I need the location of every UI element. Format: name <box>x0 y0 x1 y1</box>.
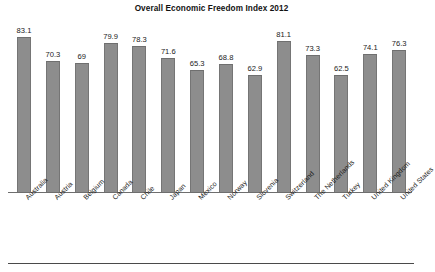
category-tick: Japan <box>154 194 183 254</box>
bar[interactable] <box>363 54 377 192</box>
category-tick: Canada <box>97 194 126 254</box>
category-tick: The Netherlands <box>299 194 328 254</box>
bar-slot: 68.8 <box>212 24 241 192</box>
bar[interactable] <box>161 58 175 192</box>
bar-value-label: 76.3 <box>379 39 419 48</box>
bar[interactable] <box>132 46 146 192</box>
bar-slot: 62.9 <box>241 24 270 192</box>
footer-divider <box>8 263 414 264</box>
category-tick: Turkey <box>327 194 356 254</box>
bar-slot: 79.9 <box>97 24 126 192</box>
chart-title: Overall Economic Freedom Index 2012 <box>0 4 423 13</box>
footer-caption <box>8 266 414 272</box>
category-tick: Chile <box>125 194 154 254</box>
bar-slot: 71.6 <box>154 24 183 192</box>
bar[interactable] <box>104 43 118 192</box>
category-tick: United Kingdom <box>356 194 385 254</box>
category-tick: Belgium <box>68 194 97 254</box>
bar-slot: 69 <box>68 24 97 192</box>
bar[interactable] <box>17 37 31 192</box>
bar-slot: 74.1 <box>356 24 385 192</box>
category-tick: Austria <box>39 194 68 254</box>
bar[interactable] <box>277 41 291 192</box>
category-tick: Australia <box>10 194 39 254</box>
bar[interactable] <box>75 63 89 192</box>
bar-slot: 73.3 <box>299 24 328 192</box>
plot-area: 83.170.36979.978.371.665.368.862.981.173… <box>10 24 414 192</box>
x-axis-category-labels: AustraliaAustriaBelgiumCanadaChileJapanM… <box>10 194 414 254</box>
bar-slot: 70.3 <box>39 24 68 192</box>
category-tick: Slovenia <box>241 194 270 254</box>
bar[interactable] <box>248 75 262 192</box>
category-tick: Norway <box>212 194 241 254</box>
category-tick: United States <box>385 194 414 254</box>
bar[interactable] <box>190 70 204 192</box>
bar[interactable] <box>219 64 233 192</box>
bar[interactable] <box>46 61 60 192</box>
category-tick: Mexico <box>183 194 212 254</box>
category-tick: Switzerland <box>270 194 299 254</box>
bar-slot: 65.3 <box>183 24 212 192</box>
